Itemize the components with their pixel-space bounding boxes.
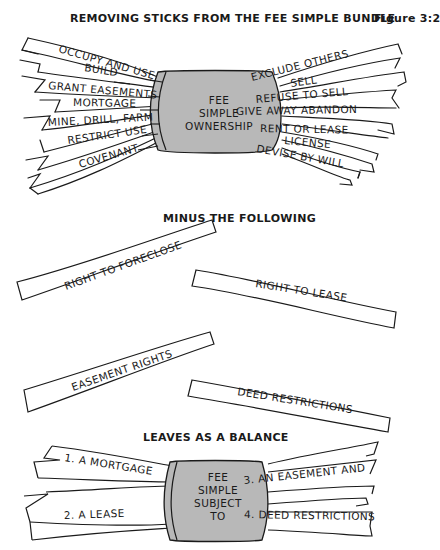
- bottom-band-line-1: FEE: [208, 471, 229, 483]
- stick-give-away-abandon: GIVE AWAY ABANDON: [236, 103, 358, 117]
- stick-rent-or-lease: RENT OR LEASE: [260, 122, 349, 136]
- top-band-line-1: FEE: [209, 94, 230, 106]
- top-band-line-2: SIMPLE: [199, 107, 239, 119]
- removed-stick-deed-restrictions: [188, 380, 390, 432]
- stick-mortgage: MORTGAGE: [73, 96, 137, 109]
- bottom-band-line-2: SIMPLE: [198, 484, 238, 496]
- removed-stick-right-to-lease: [192, 270, 396, 328]
- bottom-band-line-3: SUBJECT: [194, 497, 242, 509]
- bottom-band-line-4: TO: [209, 510, 225, 522]
- top-band-line-3: OWNERSHIP: [185, 120, 253, 132]
- label-easement-rights: EASEMENT RIGHTS: [70, 347, 174, 393]
- bottom-stick-lease: 2. A LEASE: [64, 507, 125, 521]
- bottom-stick-deed-restrictions: 4. DEED RESTRICTIONS: [244, 508, 375, 522]
